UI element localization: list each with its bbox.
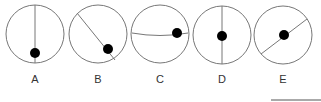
- ball-dot: [103, 44, 113, 54]
- ball-dot: [279, 30, 289, 40]
- option-label-b: B: [88, 73, 108, 85]
- option-label-c: C: [150, 73, 170, 85]
- option-e-figure: [254, 6, 312, 64]
- option-label-e: E: [273, 73, 293, 85]
- ball-dot: [172, 28, 182, 38]
- option-label-d: D: [212, 73, 232, 85]
- option-b-figure: [69, 5, 127, 63]
- option-c-figure: [131, 5, 189, 63]
- option-a-figure: [6, 5, 64, 63]
- ball-dot: [217, 31, 227, 41]
- circle-options-diagram: [0, 0, 321, 102]
- ball-dot: [30, 48, 40, 58]
- option-d-figure: [193, 6, 251, 64]
- option-label-a: A: [25, 73, 45, 85]
